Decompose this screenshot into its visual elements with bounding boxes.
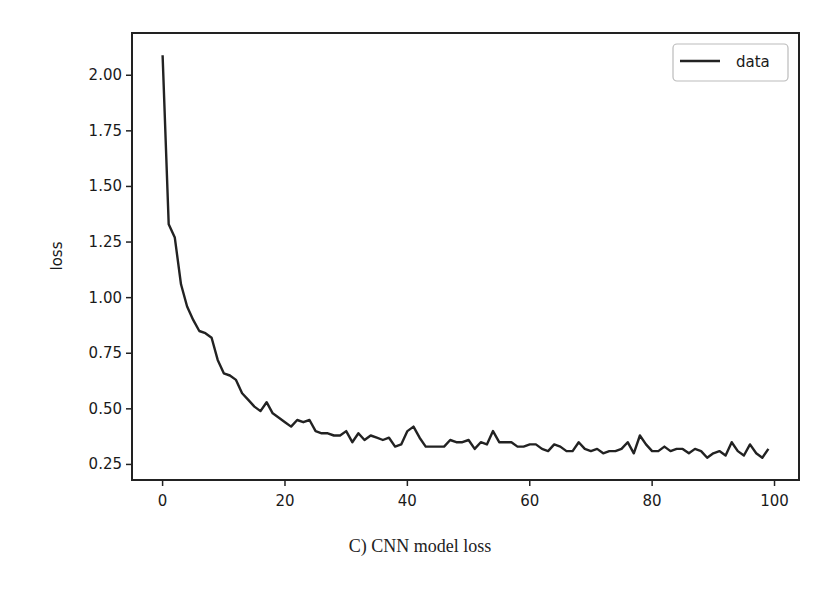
y-tick-label: 0.75 bbox=[89, 344, 122, 362]
plot-area bbox=[132, 33, 799, 480]
x-tick-label: 40 bbox=[398, 492, 417, 510]
y-tick-label: 1.25 bbox=[89, 233, 122, 251]
y-tick-label: 2.00 bbox=[89, 66, 122, 84]
x-tick-label: 100 bbox=[760, 492, 789, 510]
y-tick-label: 1.75 bbox=[89, 122, 122, 140]
x-tick-label: 0 bbox=[158, 492, 168, 510]
y-tick-label: 1.50 bbox=[89, 177, 122, 195]
chart: 0.250.500.751.001.251.501.752.00 0204060… bbox=[0, 0, 840, 598]
figure-caption: C) CNN model loss bbox=[0, 536, 840, 557]
x-tick-label: 20 bbox=[275, 492, 294, 510]
y-axis: 0.250.500.751.001.251.501.752.00 bbox=[89, 66, 132, 473]
x-tick-label: 60 bbox=[520, 492, 539, 510]
legend: data bbox=[673, 44, 788, 81]
loss-line bbox=[163, 55, 769, 458]
x-tick-label: 80 bbox=[643, 492, 662, 510]
legend-label: data bbox=[736, 53, 770, 71]
y-tick-label: 0.25 bbox=[89, 455, 122, 473]
data-line bbox=[163, 55, 769, 458]
y-tick-label: 0.50 bbox=[89, 400, 122, 418]
x-axis: 020406080100 bbox=[158, 480, 789, 510]
legend-box bbox=[673, 44, 788, 81]
y-tick-label: 1.00 bbox=[89, 289, 122, 307]
y-axis-label: loss bbox=[48, 241, 66, 270]
